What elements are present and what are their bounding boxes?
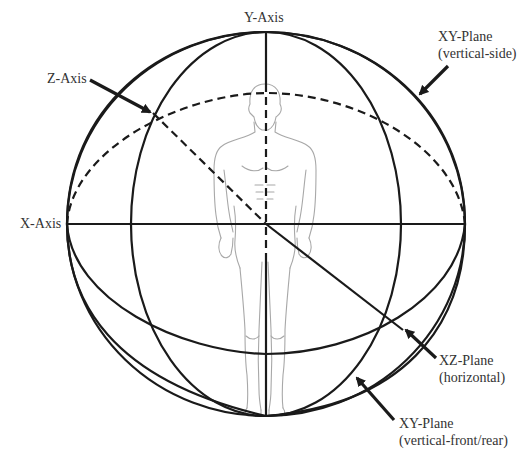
xy-plane-side-subtitle: (vertical-side) — [438, 45, 517, 62]
xy-plane-side-title: XY-Plane — [438, 28, 517, 45]
xy-plane-front-title: XY-Plane — [399, 415, 508, 432]
z-axis-back-line — [153, 113, 266, 224]
z-axis-label: Z-Axis — [47, 71, 87, 87]
xy-plane-front-label: XY-Plane (vertical-front/rear) — [399, 415, 508, 449]
xz-arrow — [406, 330, 436, 358]
xy-plane-front-subtitle: (vertical-front/rear) — [399, 432, 508, 449]
xz-plane-title: XZ-Plane — [439, 352, 505, 369]
xy-side-arrow — [420, 66, 448, 94]
z-axis-arrow — [90, 80, 150, 112]
xy-plane-side-label: XY-Plane (vertical-side) — [438, 28, 517, 62]
xz-plane-subtitle: (horizontal) — [439, 369, 505, 386]
y-axis-label: Y-Axis — [244, 10, 284, 26]
x-axis-label: X-Axis — [20, 216, 61, 232]
diagram-canvas: Y-Axis X-Axis Z-Axis XY-Plane (vertical-… — [0, 0, 528, 454]
xz-plane-label: XZ-Plane (horizontal) — [439, 352, 505, 386]
dashed-lines — [67, 84, 465, 260]
